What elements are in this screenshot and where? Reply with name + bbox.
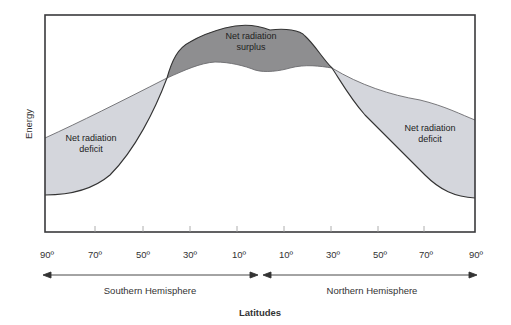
tick-label: 10º bbox=[232, 249, 247, 260]
northern-hemisphere-label: Northern Hemisphere bbox=[327, 285, 418, 296]
surplus-label-line2: surplus bbox=[236, 42, 266, 52]
deficit-region-north bbox=[332, 68, 475, 198]
tick-label: 10º bbox=[279, 249, 294, 260]
southern-hemisphere-label: Southern Hemisphere bbox=[104, 285, 196, 296]
northern-hemisphere-arrow bbox=[263, 272, 477, 278]
deficit-south-label-line1: Net radiation bbox=[65, 133, 116, 143]
surplus-label-line1: Net radiation bbox=[225, 31, 276, 41]
deficit-south-label-line2: deficit bbox=[79, 144, 103, 154]
tick-label: 90º bbox=[469, 249, 484, 260]
tick-label: 50º bbox=[136, 249, 151, 260]
deficit-north-label-line1: Net radiation bbox=[404, 123, 455, 133]
deficit-north-label-line2: deficit bbox=[418, 134, 442, 144]
y-axis-title: Energy bbox=[23, 109, 34, 139]
radiation-balance-chart: 90º 70º 50º 30º 10º 10º 30º 50º 70º 90º … bbox=[0, 0, 511, 325]
southern-hemisphere-arrow bbox=[43, 272, 258, 278]
tick-label: 30º bbox=[326, 249, 341, 260]
tick-label: 70º bbox=[88, 249, 103, 260]
tick-label: 70º bbox=[419, 249, 434, 260]
tick-label: 30º bbox=[183, 249, 198, 260]
x-axis-ticks bbox=[95, 226, 424, 232]
tick-label: 50º bbox=[373, 249, 388, 260]
tick-label: 90º bbox=[40, 249, 55, 260]
x-axis-title: Latitudes bbox=[239, 307, 281, 318]
